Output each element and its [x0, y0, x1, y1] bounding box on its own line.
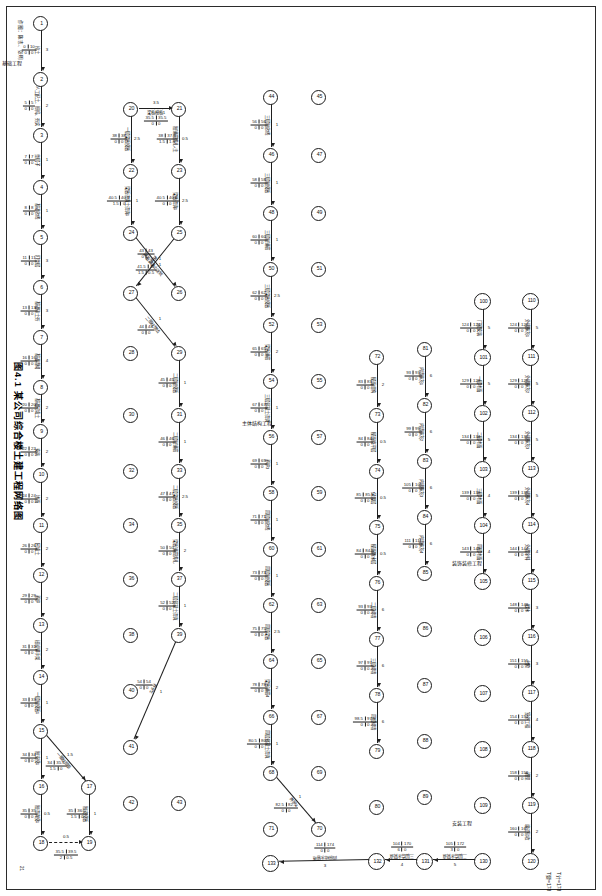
node-13[interactable]: 13 [34, 618, 49, 633]
node-46[interactable]: 46 [264, 148, 279, 163]
node-59[interactable]: 59 [312, 486, 327, 501]
node-50[interactable]: 50 [264, 262, 279, 277]
node-113[interactable]: 113 [523, 461, 540, 478]
node-45[interactable]: 45 [312, 90, 327, 105]
node-131[interactable]: 131 [417, 853, 434, 870]
node-2[interactable]: 2 [34, 72, 49, 87]
node-30[interactable]: 30 [124, 408, 139, 423]
node-67[interactable]: 67 [312, 710, 327, 725]
node-108[interactable]: 108 [475, 741, 492, 758]
node-81[interactable]: 81 [418, 342, 433, 357]
node-10[interactable]: 10 [34, 468, 49, 483]
node-33[interactable]: 33 [172, 464, 187, 479]
node-31[interactable]: 31 [172, 408, 187, 423]
node-102[interactable]: 102 [475, 405, 492, 422]
node-63[interactable]: 63 [312, 598, 327, 613]
node-55[interactable]: 55 [312, 374, 327, 389]
node-112[interactable]: 112 [523, 405, 540, 422]
node-6[interactable]: 6 [34, 280, 49, 295]
node-32[interactable]: 32 [124, 464, 139, 479]
node-62[interactable]: 62 [264, 598, 279, 613]
node-14[interactable]: 14 [34, 670, 49, 685]
node-39[interactable]: 39 [172, 628, 187, 643]
node-47[interactable]: 47 [312, 148, 327, 163]
node-57[interactable]: 57 [312, 430, 327, 445]
node-64[interactable]: 64 [264, 654, 279, 669]
node-74[interactable]: 74 [370, 464, 385, 479]
node-21[interactable]: 21 [172, 102, 187, 117]
node-80[interactable]: 80 [370, 800, 385, 815]
node-79[interactable]: 79 [370, 744, 385, 759]
node-130[interactable]: 130 [475, 853, 492, 870]
node-111[interactable]: 111 [523, 349, 540, 366]
node-4[interactable]: 4 [34, 180, 49, 195]
node-114[interactable]: 114 [523, 517, 540, 534]
node-27[interactable]: 27 [124, 286, 139, 301]
node-22[interactable]: 22 [124, 164, 139, 179]
node-109[interactable]: 109 [475, 797, 492, 814]
node-19[interactable]: 19 [82, 836, 97, 851]
node-44[interactable]: 44 [264, 90, 279, 105]
node-34[interactable]: 34 [124, 518, 139, 533]
node-117[interactable]: 117 [523, 685, 540, 702]
node-20[interactable]: 20 [124, 102, 139, 117]
node-53[interactable]: 53 [312, 318, 327, 333]
node-56[interactable]: 56 [264, 430, 279, 445]
node-9[interactable]: 9 [34, 424, 49, 439]
node-12[interactable]: 12 [34, 568, 49, 583]
node-68[interactable]: 68 [264, 766, 279, 781]
node-106[interactable]: 106 [475, 629, 492, 646]
node-85[interactable]: 85 [418, 566, 433, 581]
node-23[interactable]: 23 [172, 164, 187, 179]
node-77[interactable]: 77 [370, 632, 385, 647]
node-105[interactable]: 105 [475, 573, 492, 590]
node-103[interactable]: 103 [475, 461, 492, 478]
node-76[interactable]: 76 [370, 576, 385, 591]
node-37[interactable]: 37 [172, 572, 187, 587]
node-61[interactable]: 61 [312, 542, 327, 557]
node-7[interactable]: 7 [34, 330, 49, 345]
node-84[interactable]: 84 [418, 510, 433, 525]
node-83[interactable]: 83 [418, 454, 433, 469]
node-116[interactable]: 116 [523, 629, 540, 646]
node-15[interactable]: 15 [34, 724, 49, 739]
node-71[interactable]: 71 [264, 822, 279, 837]
node-38[interactable]: 38 [124, 628, 139, 643]
node-89[interactable]: 89 [418, 790, 433, 805]
node-104[interactable]: 104 [475, 517, 492, 534]
node-49[interactable]: 49 [312, 206, 327, 221]
node-88[interactable]: 88 [418, 734, 433, 749]
node-36[interactable]: 36 [124, 572, 139, 587]
node-48[interactable]: 48 [264, 206, 279, 221]
node-66[interactable]: 66 [264, 710, 279, 725]
node-51[interactable]: 51 [312, 262, 327, 277]
node-54[interactable]: 54 [264, 374, 279, 389]
node-1[interactable]: 1 [34, 16, 49, 31]
node-69[interactable]: 69 [312, 766, 327, 781]
node-11[interactable]: 11 [34, 518, 49, 533]
node-29[interactable]: 29 [172, 346, 187, 361]
node-119[interactable]: 119 [523, 797, 540, 814]
node-58[interactable]: 58 [264, 486, 279, 501]
node-28[interactable]: 28 [124, 346, 139, 361]
node-87[interactable]: 87 [418, 678, 433, 693]
node-120[interactable]: 120 [523, 853, 540, 870]
node-52[interactable]: 52 [264, 318, 279, 333]
node-72[interactable]: 72 [370, 350, 385, 365]
node-101[interactable]: 101 [475, 349, 492, 366]
node-8[interactable]: 8 [34, 380, 49, 395]
node-107[interactable]: 107 [475, 685, 492, 702]
node-75[interactable]: 75 [370, 520, 385, 535]
node-16[interactable]: 16 [34, 780, 49, 795]
node-42[interactable]: 42 [124, 796, 139, 811]
node-5[interactable]: 5 [34, 230, 49, 245]
node-100[interactable]: 100 [475, 293, 492, 310]
node-73[interactable]: 73 [370, 408, 385, 423]
node-78[interactable]: 78 [370, 688, 385, 703]
node-25[interactable]: 25 [172, 226, 187, 241]
node-3[interactable]: 3 [34, 128, 49, 143]
node-43[interactable]: 43 [172, 796, 187, 811]
node-35[interactable]: 35 [172, 518, 187, 533]
node-118[interactable]: 118 [523, 741, 540, 758]
node-70[interactable]: 70 [312, 822, 327, 837]
